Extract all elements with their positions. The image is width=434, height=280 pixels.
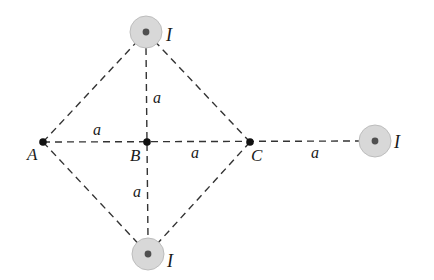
current-label-bottom: I <box>167 252 173 270</box>
wire-top <box>130 16 162 48</box>
distance-label-C-right: a <box>311 145 319 161</box>
distance-label-B-bottom: a <box>133 184 141 200</box>
current-out-of-page-icon <box>145 251 152 258</box>
point-B-label: B <box>130 147 140 164</box>
point-A-label: A <box>27 146 37 163</box>
current-out-of-page-icon <box>372 138 379 145</box>
point-A-dot <box>39 138 47 146</box>
line-C-top-wire <box>146 32 250 142</box>
wire-right <box>359 125 391 157</box>
point-C-label: C <box>251 147 262 164</box>
point-C-dot <box>246 138 254 146</box>
current-label-right: I <box>394 133 400 151</box>
distance-label-B-top: a <box>153 90 161 106</box>
wire-bottom <box>132 238 164 270</box>
current-label-top: I <box>166 26 172 44</box>
point-B-dot <box>143 138 151 146</box>
current-out-of-page-icon <box>143 29 150 36</box>
dashed-lines <box>43 32 359 254</box>
diagram-canvas <box>0 0 434 280</box>
distance-label-B-C: a <box>191 145 199 161</box>
distance-label-A-B: a <box>93 122 101 138</box>
line-A-to-right-wire <box>43 141 359 142</box>
line-C-bottom-wire <box>148 142 250 254</box>
